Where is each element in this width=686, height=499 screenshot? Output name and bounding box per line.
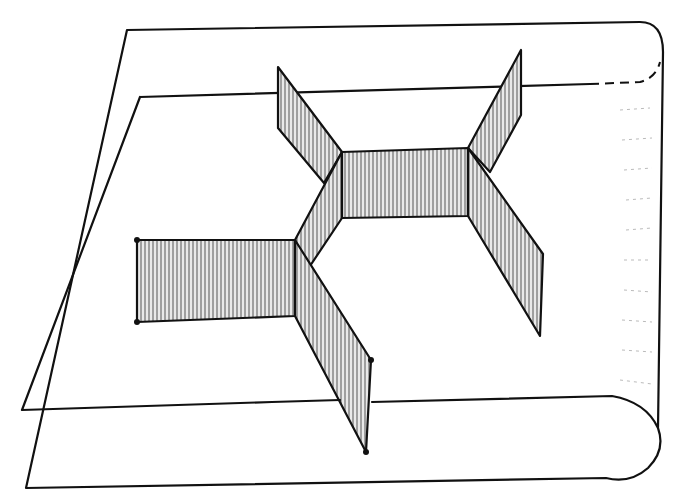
- vertex-dot: [368, 357, 374, 363]
- left-panel: [137, 240, 295, 322]
- lower-left-panel: [295, 240, 371, 452]
- junction-diagram: [0, 0, 686, 499]
- upper-right-panel: [468, 50, 521, 172]
- lower-right-panel: [468, 148, 543, 336]
- hidden-edge-dashed: [590, 62, 660, 84]
- diagram-canvas: Three-way junction of vertical walls sta…: [0, 0, 686, 499]
- curl-shading: [620, 108, 652, 384]
- sheet-inner-front-edge: [272, 400, 340, 402]
- upper-left-panel: [278, 67, 342, 183]
- vertex-dot: [363, 449, 369, 455]
- central-panel: [342, 148, 468, 218]
- vertex-dot: [134, 237, 140, 243]
- vertex-dot: [134, 319, 140, 325]
